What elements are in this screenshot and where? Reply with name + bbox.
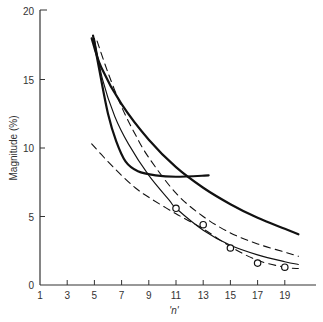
y-tick-label: 20 — [23, 6, 35, 17]
x-ticks: 135791113151719 — [37, 280, 291, 301]
x-axis-title: 'n' — [169, 305, 179, 316]
x-tick-label: 3 — [64, 290, 70, 301]
y-tick-label: 10 — [23, 143, 35, 154]
magnitude-chart: 135791113151719 05101520 Magnitude (%) '… — [0, 0, 323, 322]
y-tick-label: 5 — [28, 212, 34, 223]
x-tick-label: 1 — [37, 290, 43, 301]
x-tick-label: 15 — [225, 290, 237, 301]
axes — [40, 10, 316, 285]
series-lines — [92, 36, 299, 269]
x-tick-label: 17 — [252, 290, 264, 301]
data-point-circle — [173, 205, 179, 211]
data-point-circle — [282, 264, 288, 270]
x-tick-label: 7 — [119, 290, 125, 301]
curve-thin-solid — [94, 38, 298, 264]
curve-dashed-lower — [92, 144, 299, 269]
x-tick-label: 5 — [92, 290, 98, 301]
data-point-circle — [254, 260, 260, 266]
x-tick-label: 19 — [279, 290, 291, 301]
y-tick-label: 15 — [23, 75, 35, 86]
y-axis-title: Magnitude (%) — [8, 115, 19, 180]
data-point-circle — [200, 222, 206, 228]
curve-thick-solid-long — [92, 38, 299, 234]
x-tick-label: 9 — [146, 290, 152, 301]
y-ticks: 05101520 — [23, 6, 45, 291]
curve-dashed-upper — [97, 41, 298, 256]
x-tick-label: 13 — [198, 290, 210, 301]
observed-markers — [173, 205, 288, 270]
x-tick-label: 11 — [171, 290, 182, 301]
data-point-circle — [227, 245, 233, 251]
y-tick-label: 0 — [28, 280, 34, 291]
